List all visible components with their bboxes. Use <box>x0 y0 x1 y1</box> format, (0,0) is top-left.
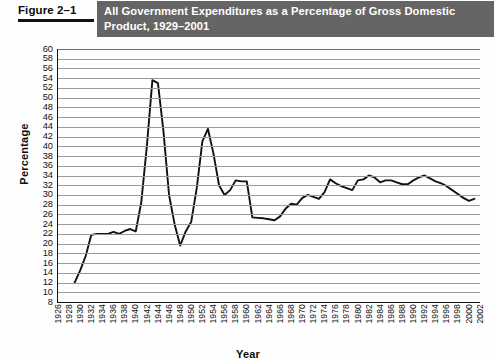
x-tick-label: 1988 <box>397 304 407 324</box>
figure-header: Figure 2–1 All Government Expenditures a… <box>0 0 496 40</box>
x-tick-label: 1934 <box>97 304 107 324</box>
gridline <box>58 107 480 108</box>
x-tick-label: 1932 <box>86 304 96 324</box>
gridline <box>58 156 480 157</box>
y-tick-label: 26 <box>13 210 53 219</box>
y-tick-label: 46 <box>13 113 53 122</box>
x-tick-label: 1958 <box>230 304 240 324</box>
x-tick-label: 1962 <box>253 304 263 324</box>
x-tick-label: 1950 <box>186 304 196 324</box>
x-tick-label: 1968 <box>286 304 296 324</box>
gridline <box>58 127 480 128</box>
figure-title: All Government Expenditures as a Percent… <box>104 4 489 33</box>
x-tick-label: 1936 <box>108 304 118 324</box>
y-tick-label: 58 <box>13 54 53 63</box>
x-tick-label: 1960 <box>241 304 251 324</box>
y-tick-label: 22 <box>13 229 53 238</box>
x-tick-label: 1938 <box>119 304 129 324</box>
x-tick-label: 1930 <box>75 304 85 324</box>
figure-number-wrap: Figure 2–1 <box>18 3 96 17</box>
y-tick-label: 54 <box>13 74 53 83</box>
chart-area: Percentage 60585654525048464442403836343… <box>0 40 496 356</box>
y-tick-label: 10 <box>13 288 53 297</box>
x-tick-label: 1998 <box>452 304 462 324</box>
x-tick-label: 1990 <box>408 304 418 324</box>
gridline <box>58 146 480 147</box>
gridline <box>58 253 480 254</box>
gridline <box>58 68 480 69</box>
y-tick-label: 36 <box>13 161 53 170</box>
x-tick-label: 1970 <box>297 304 307 324</box>
y-tick-label: 48 <box>13 103 53 112</box>
y-tick-label: 56 <box>13 64 53 73</box>
x-tick-label: 1982 <box>364 304 374 324</box>
gridline <box>58 283 480 284</box>
x-tick-label: 1976 <box>330 304 340 324</box>
x-tick-label: 1952 <box>197 304 207 324</box>
y-tick-label: 60 <box>13 45 53 54</box>
gridline <box>58 78 480 79</box>
x-tick-label: 1940 <box>130 304 140 324</box>
y-tick-label: 44 <box>13 122 53 131</box>
series-line <box>75 80 475 282</box>
x-tick-label: 1996 <box>441 304 451 324</box>
y-tick-label: 50 <box>13 93 53 102</box>
gridline <box>58 214 480 215</box>
x-tick-label: 1926 <box>53 304 63 324</box>
gridline <box>58 59 480 60</box>
x-tick-label: 1956 <box>219 304 229 324</box>
x-tick-label: 1972 <box>308 304 318 324</box>
gridline <box>58 137 480 138</box>
y-tick-label: 18 <box>13 249 53 258</box>
x-tick-label: 1966 <box>275 304 285 324</box>
x-tick-label: 1994 <box>430 304 440 324</box>
x-tick-label: 1948 <box>175 304 185 324</box>
x-tick-label: 2000 <box>464 304 474 324</box>
x-tick-label: 1978 <box>341 304 351 324</box>
gridline <box>58 195 480 196</box>
y-tick-label: 34 <box>13 171 53 180</box>
gridline <box>58 224 480 225</box>
y-tick-label: 16 <box>13 259 53 268</box>
gridline <box>58 166 480 167</box>
gridline <box>58 234 480 235</box>
gridline <box>58 244 480 245</box>
gridline <box>58 263 480 264</box>
x-tick-label: 1928 <box>64 304 74 324</box>
gridline <box>58 88 480 89</box>
gridline <box>58 117 480 118</box>
x-tick-label: 1986 <box>386 304 396 324</box>
y-tick-label: 28 <box>13 200 53 209</box>
x-tick-label: 1954 <box>208 304 218 324</box>
gridline <box>58 205 480 206</box>
x-tick-label: 1974 <box>319 304 329 324</box>
x-axis-title: Year <box>0 348 496 360</box>
y-tick-label: 42 <box>13 132 53 141</box>
y-tick-label: 20 <box>13 239 53 248</box>
x-tick-label: 1980 <box>353 304 363 324</box>
y-tick-label: 40 <box>13 142 53 151</box>
y-tick-label: 52 <box>13 83 53 92</box>
x-tick-label: 1992 <box>419 304 429 324</box>
y-tick-label: 24 <box>13 220 53 229</box>
plot-area <box>57 49 480 303</box>
x-tick-label: 1964 <box>264 304 274 324</box>
x-tick-label: 2002 <box>475 304 485 324</box>
x-tick-label: 1944 <box>153 304 163 324</box>
x-tick-label: 1984 <box>375 304 385 324</box>
gridline <box>58 176 480 177</box>
y-tick-label: 32 <box>13 181 53 190</box>
y-tick-label: 30 <box>13 190 53 199</box>
gridline <box>58 273 480 274</box>
y-tick-label: 38 <box>13 152 53 161</box>
gridline <box>58 185 480 186</box>
figure-title-band: All Government Expenditures as a Percent… <box>97 1 494 37</box>
gridline <box>58 292 480 293</box>
gridline <box>58 49 480 50</box>
y-tick-label: 12 <box>13 278 53 287</box>
y-tick-label: 14 <box>13 268 53 277</box>
y-axis-tick-labels: 6058565452504846444240383634323028262422… <box>9 49 53 302</box>
x-tick-label: 1946 <box>164 304 174 324</box>
x-tick-label: 1942 <box>142 304 152 324</box>
